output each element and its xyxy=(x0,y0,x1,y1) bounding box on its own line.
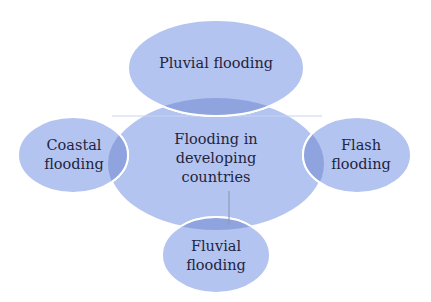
fluvial-label-line-2: flooding xyxy=(186,256,246,275)
coastal-label: Coastal flooding xyxy=(44,136,104,174)
flooding-diagram: Pluvial flooding Flooding in developing … xyxy=(0,0,431,302)
center-label: Flooding in developing countries xyxy=(174,130,257,187)
flash-label-line-2: flooding xyxy=(331,155,391,174)
center-label-line-3: countries xyxy=(174,168,257,187)
coastal-label-line-1: Coastal xyxy=(44,136,104,155)
center-label-line-2: developing xyxy=(174,149,257,168)
coastal-label-line-2: flooding xyxy=(44,155,104,174)
center-label-line-1: Flooding in xyxy=(174,130,257,149)
flash-label-line-1: Flash xyxy=(331,136,391,155)
pluvial-label: Pluvial flooding xyxy=(159,54,273,73)
flash-label: Flash flooding xyxy=(331,136,391,174)
fluvial-label-line-1: Fluvial xyxy=(186,237,246,256)
pluvial-label-line-1: Pluvial flooding xyxy=(159,54,273,73)
fluvial-label: Fluvial flooding xyxy=(186,237,246,275)
